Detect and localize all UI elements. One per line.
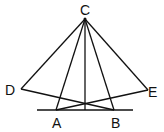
- label-B: B: [111, 115, 120, 131]
- label-C: C: [80, 2, 90, 18]
- segment-CD: [21, 19, 85, 89]
- label-D: D: [5, 82, 15, 98]
- segment-CB: [85, 19, 114, 110]
- label-E: E: [148, 84, 157, 100]
- segment-CE: [85, 19, 148, 90]
- geometry-diagram: C D E A B: [0, 0, 164, 132]
- segment-CA: [56, 19, 85, 110]
- label-A: A: [52, 115, 62, 131]
- diagram-svg: C D E A B: [0, 0, 164, 132]
